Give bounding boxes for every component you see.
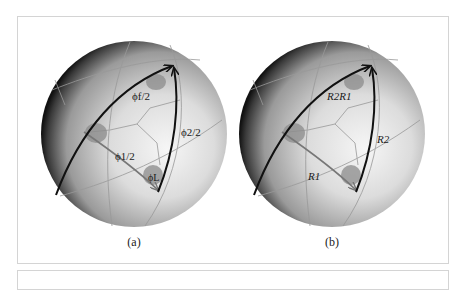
label-r2r1: R2R1 (326, 90, 351, 102)
caption-b: (b) (312, 235, 352, 250)
label-phi-f-half: ϕf/2 (132, 90, 150, 102)
label-phi2-half: ϕ2/2 (181, 126, 201, 138)
panel-a: ϕf/2 ϕ2/2 ϕ1/2 ϕL (41, 41, 227, 227)
caption-a: (a) (114, 235, 154, 250)
sphere-b (239, 41, 425, 227)
label-r1: R1 (307, 170, 320, 182)
label-r2: R2 (376, 133, 390, 145)
panel-b: R2R1 R2 R1 (239, 41, 425, 227)
label-phi1-half: ϕ1/2 (115, 150, 135, 162)
label-phi-L: ϕL (148, 172, 159, 183)
